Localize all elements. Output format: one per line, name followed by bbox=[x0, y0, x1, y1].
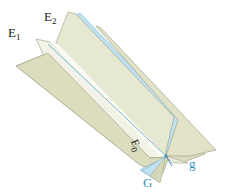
label-e2: E2 bbox=[44, 10, 56, 26]
label-e2-sub: 2 bbox=[52, 16, 57, 26]
label-e2-main: E bbox=[44, 9, 52, 24]
label-e1-sub: 1 bbox=[16, 32, 21, 42]
pencil-of-planes-diagram bbox=[0, 0, 235, 195]
label-g-plane-main: G bbox=[143, 175, 152, 190]
label-e1: E1 bbox=[8, 26, 20, 42]
label-e1-main: E bbox=[8, 25, 16, 40]
label-g-line: g bbox=[189, 157, 196, 170]
label-g-plane: G bbox=[143, 176, 152, 189]
intersection-point bbox=[164, 154, 167, 157]
label-g-line-text: g bbox=[189, 156, 196, 171]
